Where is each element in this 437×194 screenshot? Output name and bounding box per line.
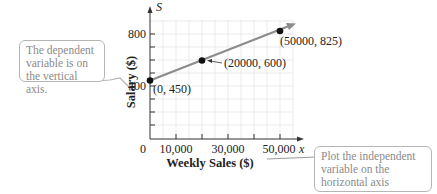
callout-dependent-variable: The dependent variable is on the vertica…	[19, 40, 105, 82]
x-axis-label: Weekly Sales ($)	[166, 156, 254, 170]
x-tick-50000: 50,000	[263, 142, 296, 156]
y-tick-800: 800	[128, 27, 146, 41]
axes	[148, 6, 305, 142]
y-axis-label: Salary ($)	[124, 56, 138, 108]
data-point-1	[199, 57, 206, 64]
x-tick-0: 0	[140, 142, 146, 156]
x-axis-var: x	[298, 142, 305, 156]
point-label-1: (20000, 600)	[224, 56, 286, 70]
point-label-2: (50000, 825)	[280, 34, 342, 48]
x-tick-10000: 10,000	[160, 142, 193, 156]
callout-independent-variable: Plot the independent variable on the hor…	[314, 146, 432, 192]
callout-right-pointer	[267, 157, 316, 159]
y-axis-var: S	[156, 0, 162, 14]
point-label-0: (0, 450)	[153, 82, 191, 96]
data-line	[150, 23, 296, 81]
grid	[150, 20, 293, 139]
x-tick-30000: 30,000	[212, 142, 245, 156]
